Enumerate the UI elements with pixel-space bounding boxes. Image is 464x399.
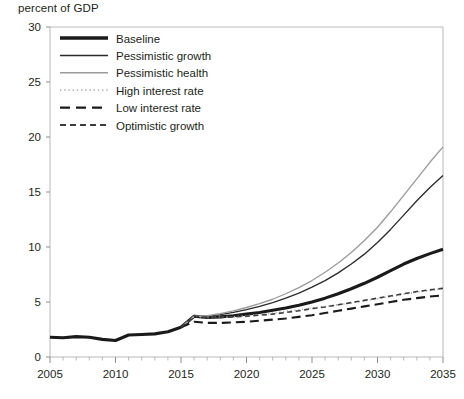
line-chart-plot: 0510152025302005201020152020202520302035… [0,0,464,399]
legend-label-high-interest-rate: High interest rate [116,85,204,97]
y-tick-label: 5 [35,296,41,308]
x-tick-label: 2010 [103,368,129,380]
y-tick-label: 30 [28,21,41,33]
legend-label-low-interest-rate: Low interest rate [116,102,201,114]
chart-figure: percent of GDP 0510152025302005201020152… [0,0,464,399]
series-line-pessimistic-growth [181,176,443,328]
x-tick-label: 2020 [234,368,260,380]
x-tick-label: 2015 [168,368,194,380]
legend-label-optimistic-growth: Optimistic growth [116,120,204,132]
x-tick-label: 2025 [299,368,325,380]
series-line-low-interest-rate [181,295,443,327]
y-tick-label: 15 [28,186,41,198]
y-tick-label: 20 [28,131,41,143]
legend-label-pessimistic-health: Pessimistic health [116,67,208,79]
x-tick-label: 2030 [365,368,391,380]
historical-line [50,327,181,340]
y-tick-label: 25 [28,76,41,88]
y-tick-label: 0 [35,351,41,363]
x-tick-label: 2005 [37,368,63,380]
x-tick-label: 2035 [430,368,456,380]
legend-label-pessimistic-growth: Pessimistic growth [116,50,211,62]
y-tick-label: 10 [28,241,41,253]
series-line-high-interest-rate [181,289,443,328]
legend-label-baseline: Baseline [116,33,160,45]
